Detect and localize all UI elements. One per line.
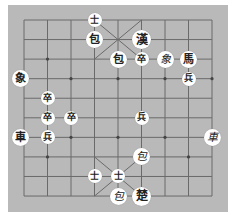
point-marker xyxy=(116,77,119,80)
piece-han-卒[interactable]: 卒 xyxy=(135,52,149,66)
piece-cho-士[interactable]: 士 xyxy=(88,169,102,183)
point-marker xyxy=(69,77,72,80)
piece-cho-象[interactable]: 象 xyxy=(157,51,174,68)
piece-han-象[interactable]: 象 xyxy=(12,70,29,87)
piece-han-馬[interactable]: 馬 xyxy=(180,51,197,68)
point-marker xyxy=(116,136,119,139)
point-marker xyxy=(210,77,213,80)
piece-cho-車[interactable]: 車 xyxy=(204,129,221,146)
point-marker xyxy=(187,155,190,158)
piece-cho-兵[interactable]: 兵 xyxy=(135,111,149,125)
piece-han-卒[interactable]: 卒 xyxy=(41,91,55,105)
piece-cho-兵[interactable]: 兵 xyxy=(182,72,196,86)
point-marker xyxy=(163,136,166,139)
piece-han-卒[interactable]: 卒 xyxy=(64,111,78,125)
point-marker xyxy=(46,58,49,61)
point-marker xyxy=(69,136,72,139)
point-marker xyxy=(163,77,166,80)
piece-cho-兵[interactable]: 兵 xyxy=(41,130,55,144)
point-marker xyxy=(46,155,49,158)
piece-cho-楚[interactable]: 楚 xyxy=(132,187,151,206)
piece-han-包[interactable]: 包 xyxy=(110,51,127,68)
piece-han-漢[interactable]: 漢 xyxy=(132,30,151,49)
piece-han-包[interactable]: 包 xyxy=(86,31,103,48)
piece-han-卒[interactable]: 卒 xyxy=(41,111,55,125)
piece-han-車[interactable]: 車 xyxy=(12,129,29,146)
piece-cho-包[interactable]: 包 xyxy=(110,188,127,205)
janggi-board[interactable]: 士包漢包卒象馬兵象卒卒卒兵車兵車包士士包楚 xyxy=(8,5,228,212)
piece-han-士[interactable]: 士 xyxy=(88,13,102,27)
